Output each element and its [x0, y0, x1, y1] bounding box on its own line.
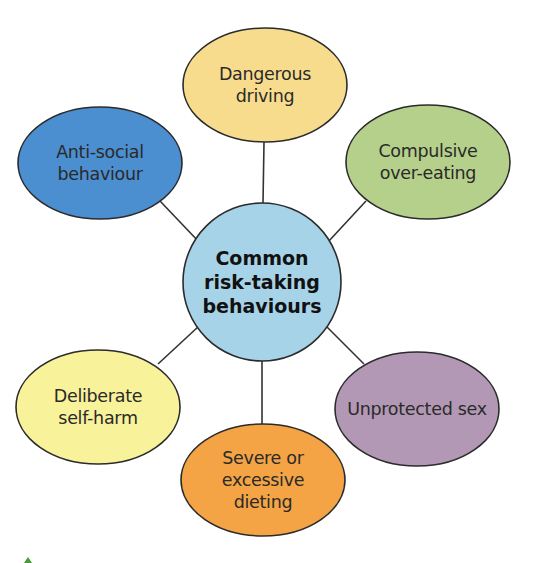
- node-label-deliberate-self-harm-line: Deliberate: [54, 385, 142, 407]
- node-label-severe-dieting-line: dieting: [222, 491, 304, 513]
- node-label-deliberate-self-harm-line: self-harm: [54, 407, 142, 429]
- node-label-unprotected-sex: Unprotected sex: [335, 352, 499, 466]
- node-label-deliberate-self-harm: Deliberateself-harm: [16, 350, 180, 464]
- node-label-dangerous-driving-line: driving: [219, 85, 311, 107]
- center-node-label-line: risk-taking: [203, 270, 322, 294]
- node-label-anti-social-behaviour-line: behaviour: [56, 163, 144, 185]
- center-node-label: Commonrisk-takingbehaviours: [183, 203, 341, 361]
- node-label-dangerous-driving: Dangerousdriving: [183, 28, 347, 142]
- node-label-severe-dieting: Severe orexcessivedieting: [181, 424, 345, 536]
- node-label-severe-dieting-line: Severe or: [222, 447, 304, 469]
- node-label-compulsive-over-eating: Compulsiveover-eating: [346, 105, 510, 219]
- node-label-compulsive-over-eating-line: over-eating: [378, 162, 477, 184]
- node-label-compulsive-over-eating-line: Compulsive: [378, 140, 477, 162]
- node-label-anti-social-behaviour: Anti-socialbehaviour: [18, 107, 182, 219]
- connector-dangerous-driving: [263, 142, 264, 203]
- node-label-anti-social-behaviour-line: Anti-social: [56, 141, 144, 163]
- node-label-unprotected-sex-line: Unprotected sex: [347, 398, 487, 420]
- center-node-label-line: behaviours: [203, 294, 322, 318]
- node-label-severe-dieting-line: excessive: [222, 469, 304, 491]
- caption-marker-icon: [24, 557, 32, 563]
- node-label-dangerous-driving-line: Dangerous: [219, 63, 311, 85]
- center-node-label-line: Common: [203, 246, 322, 270]
